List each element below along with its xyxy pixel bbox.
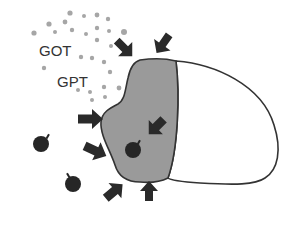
arrow-icon bbox=[99, 176, 129, 205]
particle-icon bbox=[65, 173, 81, 192]
liver-damage-diagram: GOT GPT bbox=[0, 0, 282, 225]
arrow-icon bbox=[110, 34, 140, 64]
particle-icon bbox=[33, 134, 50, 152]
diagram-canvas bbox=[0, 0, 282, 225]
arrow-icon bbox=[140, 181, 158, 201]
got-label: GOT bbox=[39, 43, 72, 58]
arrow-icon bbox=[148, 29, 177, 58]
healthy-cell-region bbox=[168, 61, 278, 184]
gpt-label: GPT bbox=[57, 74, 88, 89]
arrow-icon bbox=[78, 109, 103, 129]
damaged-cell-region bbox=[101, 59, 178, 182]
